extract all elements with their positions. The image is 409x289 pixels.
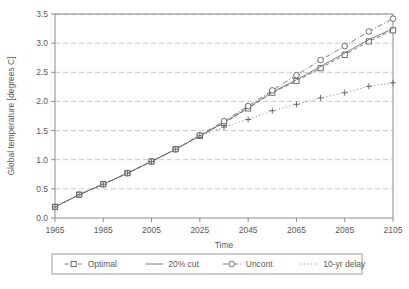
y-axis-title: Global temperature [degrees C] bbox=[6, 56, 16, 175]
legend-label-0: Optimal bbox=[88, 259, 117, 269]
x-tick-label: 2105 bbox=[384, 225, 403, 235]
marker-plus bbox=[342, 90, 348, 96]
marker-plus bbox=[269, 108, 275, 114]
x-tick-label: 1985 bbox=[94, 225, 113, 235]
x-tick-label: 1965 bbox=[46, 225, 65, 235]
legend-label-1: 20% cut bbox=[168, 259, 199, 269]
legend-label-3: 10-yr delay bbox=[323, 259, 366, 269]
marker-circle bbox=[269, 88, 275, 94]
x-tick-label: 2065 bbox=[287, 225, 306, 235]
x-tick-label: 2025 bbox=[190, 225, 209, 235]
marker-circle bbox=[366, 29, 372, 35]
marker-plus bbox=[293, 101, 299, 107]
marker-circle bbox=[342, 43, 348, 49]
x-axis-title: Time bbox=[215, 240, 234, 250]
temperature-projection-chart: 0.00.51.01.52.02.53.03.51965198520052025… bbox=[0, 0, 409, 289]
x-tick-label: 2085 bbox=[335, 225, 354, 235]
y-tick-label: 0.0 bbox=[36, 213, 48, 223]
marker-circle bbox=[221, 118, 227, 124]
x-tick-label: 2045 bbox=[239, 225, 258, 235]
marker-circle bbox=[318, 57, 324, 63]
y-tick-label: 3.0 bbox=[36, 38, 48, 48]
y-tick-label: 1.5 bbox=[36, 126, 48, 136]
marker-plus bbox=[390, 80, 396, 86]
chart-container: 0.00.51.01.52.02.53.03.51965198520052025… bbox=[0, 0, 409, 289]
marker-circle bbox=[294, 72, 300, 78]
marker-plus bbox=[366, 83, 372, 89]
marker-circle bbox=[245, 103, 251, 109]
y-tick-label: 3.5 bbox=[36, 9, 48, 19]
y-tick-label: 2.0 bbox=[36, 96, 48, 106]
legend-marker-square bbox=[71, 261, 76, 266]
y-tick-label: 0.5 bbox=[36, 184, 48, 194]
marker-circle bbox=[390, 16, 396, 22]
y-tick-label: 2.5 bbox=[36, 67, 48, 77]
marker-plus bbox=[318, 95, 324, 101]
legend-marker-circle bbox=[229, 261, 235, 267]
legend-label-2: Uncont bbox=[246, 259, 274, 269]
marker-square bbox=[390, 28, 395, 33]
marker-plus bbox=[245, 117, 251, 123]
y-tick-label: 1.0 bbox=[36, 155, 48, 165]
x-tick-label: 2005 bbox=[142, 225, 161, 235]
